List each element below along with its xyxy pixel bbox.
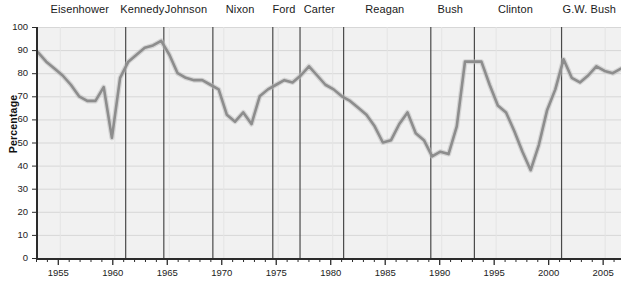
y-axis-tick-label: 50 — [2, 137, 28, 148]
y-axis-tick-label: 30 — [2, 183, 28, 194]
y-axis-tick-label: 20 — [2, 206, 28, 217]
x-axis-tick-label: 2005 — [586, 267, 620, 278]
president-label: Reagan — [365, 3, 404, 15]
x-axis-tick-label: 1975 — [259, 267, 293, 278]
x-axis-tick-label: 1990 — [423, 267, 457, 278]
x-axis-tick-label: 1980 — [314, 267, 348, 278]
president-label: Eisenhower — [51, 3, 109, 15]
president-label: Nixon — [226, 3, 255, 15]
series-svg — [38, 27, 621, 258]
x-axis-tick-label: 1955 — [41, 267, 75, 278]
x-axis-tick-label: 1985 — [368, 267, 402, 278]
president-label: Johnson — [165, 3, 207, 15]
x-axis-tick-label: 1970 — [205, 267, 239, 278]
y-axis-tick-label: 40 — [2, 160, 28, 171]
president-label: Clinton — [498, 3, 533, 15]
president-label-band: EisenhowerKennedyJohnsonNixonFordCarterR… — [0, 0, 628, 24]
chart-root: EisenhowerKennedyJohnsonNixonFordCarterR… — [0, 0, 628, 282]
y-axis-tick-label: 90 — [2, 44, 28, 55]
y-axis-tick-label: 100 — [2, 21, 28, 32]
y-axis-tick-label: 70 — [2, 90, 28, 101]
president-label: Bush — [438, 3, 463, 15]
x-axis-tick-label: 2000 — [532, 267, 566, 278]
x-axis-tick-label: 1995 — [477, 267, 511, 278]
y-axis-tick-label: 10 — [2, 229, 28, 240]
president-label: Kennedy — [120, 3, 164, 15]
plot-area — [36, 27, 621, 260]
y-axis-tick-label: 0 — [2, 252, 28, 263]
president-label: Carter — [304, 3, 335, 15]
y-axis-tick-label: 80 — [2, 67, 28, 78]
x-axis-tick-label: 1960 — [96, 267, 130, 278]
president-label: Ford — [272, 3, 295, 15]
president-label: G.W. Bush — [563, 3, 616, 15]
x-axis-tick-label: 1965 — [150, 267, 184, 278]
y-axis-tick-label: 60 — [2, 113, 28, 124]
